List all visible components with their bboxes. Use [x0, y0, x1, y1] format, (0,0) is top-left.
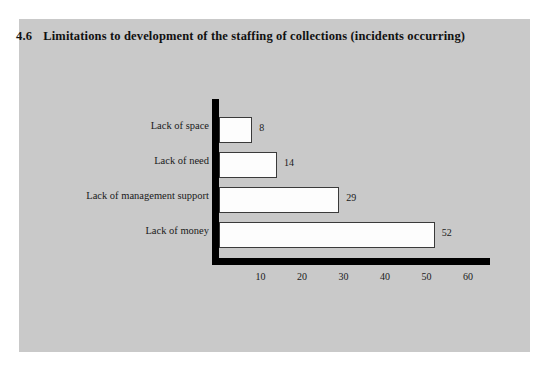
x-axis-tick-labels: 102030405060 [212, 271, 512, 287]
category-axis-labels: Lack of spaceLack of needLack of managem… [12, 99, 209, 265]
x-tick-label: 40 [380, 271, 390, 282]
bar [219, 117, 252, 143]
figure-page: 4.6 Limitations to development of the st… [0, 0, 555, 376]
category-label: Lack of need [9, 155, 209, 166]
y-axis-line [212, 99, 219, 265]
category-label: Lack of space [9, 120, 209, 131]
bar [219, 152, 277, 178]
x-tick-label: 30 [338, 271, 348, 282]
bar-chart-plot-area: 8142952 [212, 99, 490, 265]
bar-value-label: 29 [346, 192, 356, 203]
category-label: Lack of money [9, 225, 209, 236]
x-tick-label: 10 [255, 271, 265, 282]
bar-value-label: 14 [284, 157, 294, 168]
x-tick-label: 50 [421, 271, 431, 282]
figure-number: 4.6 [16, 29, 32, 44]
bar-value-label: 52 [442, 227, 452, 238]
x-tick-label: 20 [297, 271, 307, 282]
figure-title: Limitations to development of the staffi… [43, 29, 465, 44]
figure-caption: 4.6 Limitations to development of the st… [16, 29, 465, 44]
x-tick-label: 60 [463, 271, 473, 282]
bar [219, 222, 435, 248]
bar [219, 187, 339, 213]
category-label: Lack of management support [9, 190, 209, 201]
bar-value-label: 8 [259, 122, 264, 133]
x-axis-line [212, 258, 490, 265]
